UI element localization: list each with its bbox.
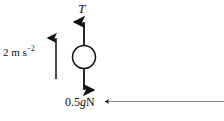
particle-circle (73, 46, 96, 69)
tension-label: T (78, 2, 85, 15)
acceleration-label: 2 m s−2 (3, 47, 35, 58)
weight-prefix: 0.5 (65, 95, 80, 109)
force-diagram: T 2 m s−2 0.5gN (0, 0, 224, 121)
acceleration-value: 2 m s (3, 46, 27, 58)
acceleration-exponent: −2 (27, 44, 35, 53)
diagram-canvas (0, 0, 224, 121)
weight-label: 0.5gN (65, 96, 95, 108)
weight-unit: N (86, 95, 95, 109)
